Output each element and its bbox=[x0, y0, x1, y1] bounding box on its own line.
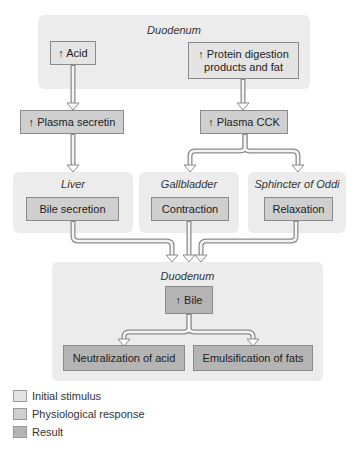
legend-label: Result bbox=[32, 426, 63, 438]
legend-initial-stimulus: Initial stimulus bbox=[13, 390, 101, 402]
legend-swatch-result bbox=[13, 426, 27, 438]
legend-swatch-stimulus bbox=[13, 390, 27, 402]
legend-label: Physiological response bbox=[32, 408, 145, 420]
legend-result: Result bbox=[13, 426, 63, 438]
legend-label: Initial stimulus bbox=[32, 390, 101, 402]
legend-physiological-response: Physiological response bbox=[13, 408, 145, 420]
legend-swatch-response bbox=[13, 408, 27, 420]
